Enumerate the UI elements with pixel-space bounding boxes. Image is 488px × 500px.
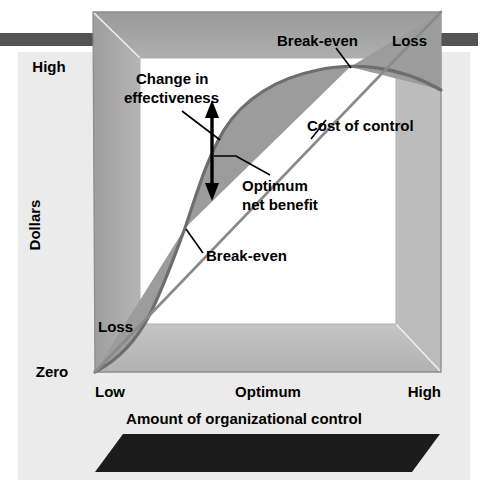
x-tick-high: High — [408, 383, 441, 400]
x-tick-low: Low — [95, 383, 125, 400]
annotation-break-even-upper: Break-even — [277, 32, 358, 49]
annotation-optimum-net-benefit-line2: net benefit — [242, 196, 318, 213]
figure-title: Amount of organizational control — [126, 410, 362, 427]
x-tick-optimum: Optimum — [235, 383, 301, 400]
base-shadow — [95, 434, 440, 472]
annotation-loss-lower: Loss — [98, 318, 133, 335]
y-tick-zero: Zero — [36, 363, 69, 380]
annotation-cost-of-control: Cost of control — [307, 117, 414, 134]
annotation-change-in-effectiveness-line1: Change in — [136, 70, 209, 87]
figure-canvas: Change in effectiveness Break-even Loss … — [0, 0, 488, 500]
annotation-change-in-effectiveness-line2: effectiveness — [124, 89, 219, 106]
annotation-optimum-net-benefit-line1: Optimum — [242, 177, 308, 194]
y-tick-high: High — [32, 58, 65, 75]
y-axis-label: Dollars — [26, 200, 43, 251]
annotation-loss-upper: Loss — [392, 32, 427, 49]
organizational-control-figure: Change in effectiveness Break-even Loss … — [0, 0, 488, 500]
annotation-break-even-lower: Break-even — [206, 247, 287, 264]
box-floor — [95, 324, 441, 372]
